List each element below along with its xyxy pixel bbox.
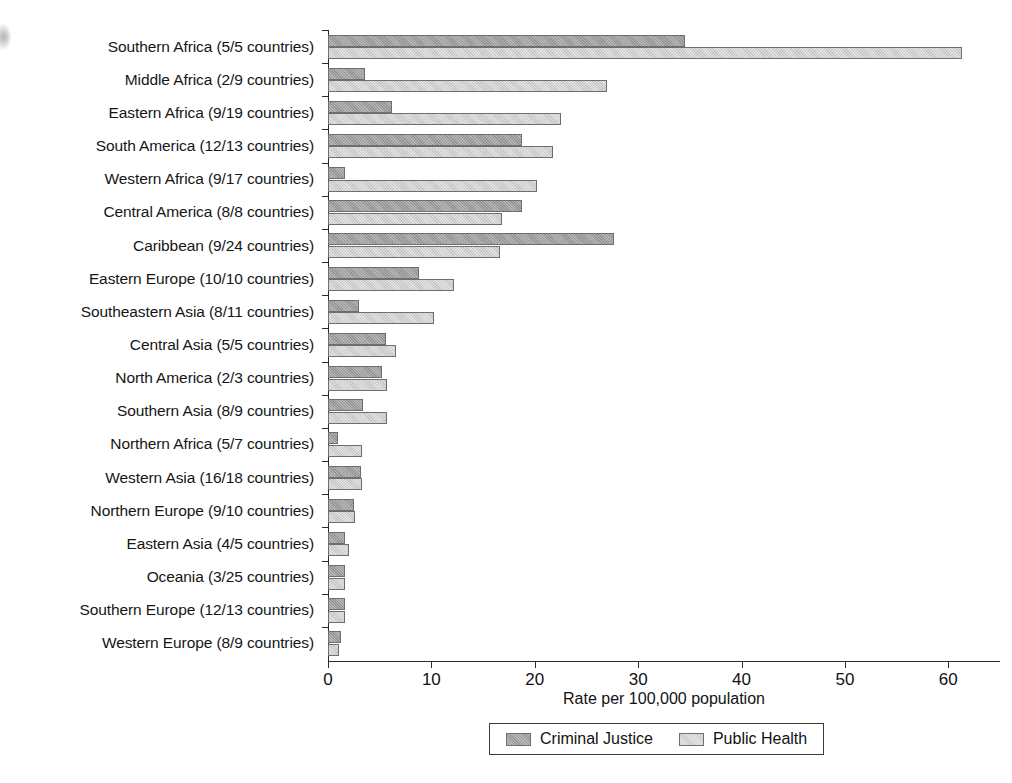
category-label: Southern Africa (5/5 countries)	[108, 38, 314, 56]
plot-area: Southern Africa (5/5 countries)Middle Af…	[328, 30, 1000, 660]
y-axis-tick	[322, 196, 328, 197]
y-axis-tick	[322, 561, 328, 562]
category-label: Central America (8/8 countries)	[103, 203, 314, 221]
bar-criminal-justice	[328, 499, 354, 511]
bar-public-health	[328, 113, 561, 125]
bar-public-health	[328, 445, 362, 457]
chart-row: Western Europe (8/9 countries)	[328, 627, 1000, 660]
x-tick-label: 60	[939, 670, 958, 690]
y-axis-tick	[322, 627, 328, 628]
bar-criminal-justice	[328, 101, 392, 113]
x-tick-mark	[638, 661, 639, 668]
chart-row: Western Africa (9/17 countries)	[328, 163, 1000, 196]
y-axis-tick	[322, 63, 328, 64]
legend-item-criminal-justice: Criminal Justice	[506, 730, 653, 748]
chart-row: Caribbean (9/24 countries)	[328, 229, 1000, 262]
bar-public-health	[328, 478, 362, 490]
bar-criminal-justice	[328, 35, 685, 47]
bar-criminal-justice	[328, 432, 338, 444]
x-tick-mark	[742, 661, 743, 668]
bar-public-health	[328, 213, 502, 225]
category-label: Western Asia (16/18 countries)	[105, 469, 314, 487]
bar-criminal-justice	[328, 333, 386, 345]
category-label: Eastern Europe (10/10 countries)	[89, 270, 314, 288]
y-axis-tick	[322, 395, 328, 396]
category-label: North America (2/3 countries)	[115, 369, 314, 387]
bar-public-health	[328, 578, 345, 590]
bar-criminal-justice	[328, 68, 365, 80]
bar-public-health	[328, 379, 387, 391]
chart-row: Middle Africa (2/9 countries)	[328, 63, 1000, 96]
y-axis-tick	[322, 30, 328, 31]
y-axis-tick	[322, 229, 328, 230]
category-label: Western Europe (8/9 countries)	[102, 634, 314, 652]
chart-row: Southern Africa (5/5 countries)	[328, 30, 1000, 63]
chart-row: Southern Asia (8/9 countries)	[328, 395, 1000, 428]
bar-criminal-justice	[328, 399, 363, 411]
y-axis-tick	[322, 428, 328, 429]
y-axis-tick	[322, 295, 328, 296]
bar-public-health	[328, 544, 349, 556]
chart-legend: Criminal Justice Public Health	[489, 723, 824, 755]
x-tick-mark	[535, 661, 536, 668]
category-label: Northern Europe (9/10 countries)	[91, 502, 314, 520]
legend-item-public-health: Public Health	[679, 730, 807, 748]
category-label: Middle Africa (2/9 countries)	[125, 71, 314, 89]
bar-public-health	[328, 180, 537, 192]
horizontal-bar-chart: Southern Africa (5/5 countries)Middle Af…	[0, 0, 1012, 783]
bar-criminal-justice	[328, 565, 345, 577]
x-tick-label: 30	[629, 670, 648, 690]
chart-row: South America (12/13 countries)	[328, 129, 1000, 162]
x-tick-label: 50	[835, 670, 854, 690]
chart-row: Southeastern Asia (8/11 countries)	[328, 295, 1000, 328]
x-tick-label: 20	[525, 670, 544, 690]
scan-artifact	[0, 24, 10, 50]
category-label: Southeastern Asia (8/11 countries)	[81, 303, 314, 321]
chart-row: Northern Africa (5/7 countries)	[328, 428, 1000, 461]
chart-row: Central America (8/8 countries)	[328, 196, 1000, 229]
y-axis-tick	[322, 96, 328, 97]
bar-criminal-justice	[328, 233, 614, 245]
chart-row: Eastern Europe (10/10 countries)	[328, 262, 1000, 295]
bar-criminal-justice	[328, 631, 341, 643]
y-axis-tick	[322, 362, 328, 363]
bar-criminal-justice	[328, 167, 345, 179]
chart-row: Eastern Asia (4/5 countries)	[328, 527, 1000, 560]
bar-public-health	[328, 80, 607, 92]
category-label: South America (12/13 countries)	[96, 137, 314, 155]
chart-row: North America (2/3 countries)	[328, 362, 1000, 395]
bar-criminal-justice	[328, 598, 345, 610]
chart-row: Southern Europe (12/13 countries)	[328, 594, 1000, 627]
y-axis-tick	[322, 494, 328, 495]
bar-public-health	[328, 511, 355, 523]
x-axis-label: Rate per 100,000 population	[328, 690, 1000, 708]
bar-criminal-justice	[328, 532, 345, 544]
bar-public-health	[328, 279, 454, 291]
public-health-swatch	[679, 733, 704, 746]
bar-criminal-justice	[328, 134, 522, 146]
chart-row: Western Asia (16/18 countries)	[328, 461, 1000, 494]
y-axis-tick	[322, 129, 328, 130]
category-label: Eastern Africa (9/19 countries)	[109, 104, 314, 122]
x-tick-label: 10	[422, 670, 441, 690]
category-label: Northern Africa (5/7 countries)	[110, 435, 314, 453]
chart-row: Eastern Africa (9/19 countries)	[328, 96, 1000, 129]
chart-row: Northern Europe (9/10 countries)	[328, 494, 1000, 527]
x-tick-mark	[948, 661, 949, 668]
bar-public-health	[328, 345, 396, 357]
y-axis-tick	[322, 527, 328, 528]
bar-public-health	[328, 644, 339, 656]
category-label: Western Africa (9/17 countries)	[105, 170, 314, 188]
x-tick-mark	[845, 661, 846, 668]
bar-criminal-justice	[328, 300, 359, 312]
bar-criminal-justice	[328, 267, 419, 279]
legend-label-criminal-justice: Criminal Justice	[540, 730, 653, 748]
category-label: Oceania (3/25 countries)	[147, 568, 314, 586]
bar-criminal-justice	[328, 466, 361, 478]
category-rows: Southern Africa (5/5 countries)Middle Af…	[328, 30, 1000, 660]
bar-public-health	[328, 246, 500, 258]
bar-public-health	[328, 47, 962, 59]
category-label: Southern Europe (12/13 countries)	[79, 601, 314, 619]
category-label: Southern Asia (8/9 countries)	[117, 402, 314, 420]
x-tick-label: 0	[323, 670, 332, 690]
